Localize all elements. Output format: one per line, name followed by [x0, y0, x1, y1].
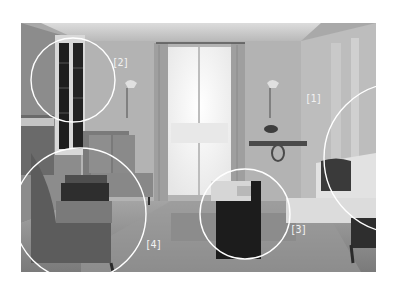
- callout-label-2: [2]: [112, 58, 129, 68]
- callout-label-1: [1]: [305, 94, 322, 104]
- interior-photo: [2] [1] [3] [4]: [21, 23, 376, 272]
- living-room-scene: [21, 23, 376, 272]
- callout-label-4: [4]: [145, 240, 162, 250]
- callout-label-3: [3]: [290, 225, 307, 235]
